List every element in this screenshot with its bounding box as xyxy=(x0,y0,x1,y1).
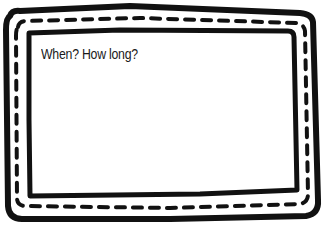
outer-border xyxy=(6,6,318,219)
prompt-text: When? How long? xyxy=(41,45,138,62)
stitched-frame-border xyxy=(0,0,334,236)
